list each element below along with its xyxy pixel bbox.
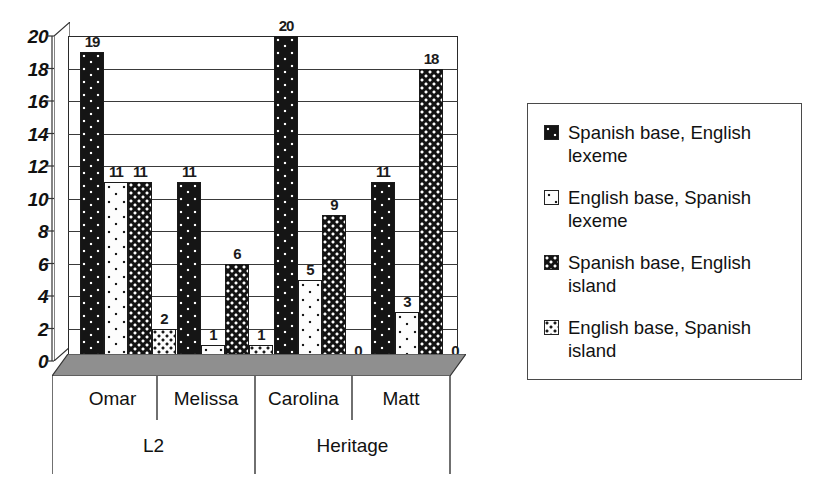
- y-tick-label: 0: [14, 352, 48, 371]
- legend-item: Spanish base, English island: [544, 252, 787, 297]
- y-tick-label: 4: [14, 287, 48, 306]
- gridline: [68, 101, 458, 102]
- bar-value-label: 11: [376, 164, 390, 179]
- gridline: [68, 134, 458, 135]
- legend-item: English base, Spanish lexeme: [544, 187, 787, 232]
- y-tick-label: 8: [14, 222, 48, 241]
- plot-area: 19 11 11 2 11 1 6 1 20 5 9: [68, 36, 458, 361]
- bar-carolina-spanish-base-english-lexeme: 20: [274, 36, 298, 361]
- gridline: [68, 69, 458, 70]
- legend-item: Spanish base, English lexeme: [544, 122, 787, 167]
- legend-label: Spanish base, English lexeme: [568, 122, 786, 167]
- bar-value-label: 1: [257, 327, 264, 342]
- bar-value-label: 9: [330, 197, 337, 212]
- bar-value-label: 5: [306, 262, 313, 277]
- bar-value-label: 19: [85, 34, 100, 49]
- y-tick-label: 18: [14, 59, 48, 78]
- bar-value-label: 6: [233, 246, 240, 261]
- x-group-label-l2: L2: [52, 422, 255, 470]
- gridline: [68, 166, 458, 167]
- x-tick-label-carolina: Carolina: [255, 378, 352, 420]
- legend-swatch-english-base-spanish-lexeme: [544, 190, 559, 205]
- bar-matt-spanish-base-english-island: 18: [419, 69, 443, 362]
- bar-value-label: 3: [403, 294, 410, 309]
- bar-value-label: 11: [133, 164, 147, 179]
- x-group-label-heritage: Heritage: [255, 422, 450, 470]
- legend-swatch-spanish-base-english-lexeme: [544, 125, 559, 140]
- x-tick-label-matt: Matt: [352, 378, 450, 420]
- bar-chart: 20 18 16 14 12 10 8 6 4 2 0: [0, 0, 500, 483]
- chart-legend: Spanish base, English lexeme English bas…: [527, 103, 802, 380]
- legend-label: Spanish base, English island: [568, 252, 786, 297]
- bar-value-label: 20: [279, 18, 294, 33]
- bar-carolina-english-base-spanish-lexeme: 5: [298, 280, 322, 361]
- bar-value-label: 1: [209, 327, 216, 342]
- bar-melissa-spanish-base-english-island: 6: [225, 264, 249, 362]
- x-tick-label-omar: Omar: [52, 378, 173, 420]
- x-tick-label-melissa: Melissa: [157, 378, 255, 420]
- bar-omar-spanish-base-english-lexeme: 19: [80, 52, 104, 361]
- bar-melissa-spanish-base-english-lexeme: 11: [177, 182, 201, 361]
- legend-label: English base, Spanish island: [568, 317, 786, 362]
- y-tick-label: 6: [14, 254, 48, 273]
- legend-item: English base, Spanish island: [544, 317, 787, 362]
- y-tick-label: 12: [14, 157, 48, 176]
- bar-value-label: 11: [182, 164, 196, 179]
- bar-omar-spanish-base-english-island: 11: [128, 182, 152, 361]
- bar-matt-spanish-base-english-lexeme: 11: [371, 182, 395, 361]
- chart-3d-floor: [52, 354, 466, 376]
- y-tick-label: 10: [14, 189, 48, 208]
- legend-label: English base, Spanish lexeme: [568, 187, 786, 232]
- legend-swatch-english-base-spanish-island: [544, 320, 559, 335]
- legend-swatch-spanish-base-english-island: [544, 255, 559, 270]
- y-tick-label: 16: [14, 92, 48, 111]
- y-tick-label: 2: [14, 319, 48, 338]
- bar-value-label: 2: [160, 311, 167, 326]
- x-axis: Omar Melissa Carolina Matt L2 Heritage: [68, 376, 458, 476]
- bar-value-label: 11: [109, 164, 123, 179]
- bar-value-label: 18: [424, 51, 439, 66]
- y-axis: 20 18 16 14 12 10 8 6 4 2 0: [6, 0, 48, 483]
- y-tick-label: 14: [14, 124, 48, 143]
- y-tick-label: 20: [14, 27, 48, 46]
- bar-omar-english-base-spanish-lexeme: 11: [104, 182, 128, 361]
- bar-carolina-spanish-base-english-island: 9: [322, 215, 346, 361]
